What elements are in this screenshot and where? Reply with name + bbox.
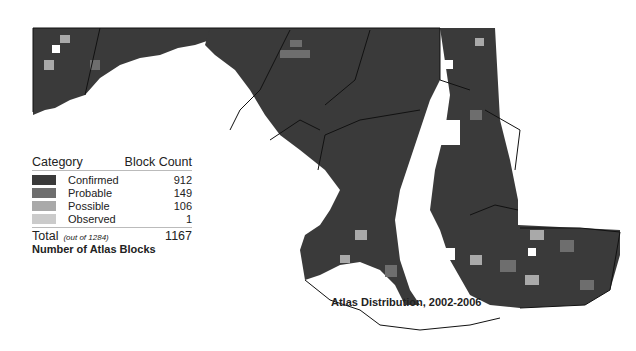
probable-swatch [32,188,56,198]
legend-count: 912 [174,174,192,186]
observed-swatch [32,214,56,224]
legend-row-possible: Possible 106 [32,199,192,212]
confirmed-swatch [32,175,56,185]
legend-label: Possible [68,200,174,212]
legend-row-probable: Probable 149 [32,186,192,199]
total-label: Total [32,229,58,243]
legend-label: Probable [68,187,174,199]
legend-count: 1 [186,213,192,225]
legend-header-count: Block Count [125,155,192,169]
legend-label: Confirmed [68,174,174,186]
map-title: Atlas Distribution, 2002-2006 [331,296,481,308]
legend-label: Observed [68,213,186,225]
legend-count: 149 [174,187,192,199]
legend-total: Total (out of 1284) 1167 [32,227,192,243]
total-sublabel: (out of 1284) [63,233,165,242]
possible-swatch [32,201,56,211]
legend-count: 106 [174,200,192,212]
legend-row-observed: Observed 1 [32,212,192,225]
legend-header-category: Category [32,155,83,169]
total-count: 1167 [165,229,192,243]
legend-row-confirmed: Confirmed 912 [32,173,192,186]
legend-header: Category Block Count [32,155,192,171]
legend-title: Number of Atlas Blocks [32,243,156,255]
legend: Category Block Count Confirmed 912 Proba… [32,155,192,243]
